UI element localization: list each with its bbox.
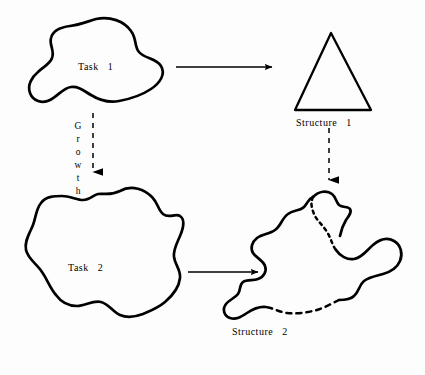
- structure2-blob-outline-dashed-upper: [311, 197, 336, 250]
- structure2-label: Structure 2: [232, 327, 288, 337]
- growth-letter-2: r: [72, 133, 84, 146]
- task1-blob-outline: [29, 18, 163, 102]
- structure1-label: Structure 1: [296, 118, 352, 128]
- growth-letter-3: o: [72, 146, 84, 159]
- structure1-triangle-outline: [295, 33, 371, 110]
- task1-label: Task 1: [78, 62, 113, 72]
- structure2-blob-outline-dashed-bottom: [266, 300, 339, 313]
- growth-letter-5: t: [72, 172, 84, 185]
- task2-label: Task 2: [68, 263, 103, 273]
- growth-letter-4: w: [72, 159, 84, 172]
- structure2-blob-outline-right-lobe: [336, 239, 401, 300]
- growth-letter-6: h: [72, 185, 84, 198]
- diagram-svg: [0, 0, 425, 375]
- task2-blob-outline: [26, 188, 184, 317]
- growth-letter-1: G: [72, 120, 84, 133]
- growth-edge-label: G r o w t h: [72, 120, 84, 198]
- structure2-blob-outline-left: [224, 197, 313, 319]
- diagram-canvas-root: Task 1 Task 2 Structure 1 Structure 2 G …: [0, 0, 425, 375]
- structure2-blob-outline-solid: [313, 192, 351, 236]
